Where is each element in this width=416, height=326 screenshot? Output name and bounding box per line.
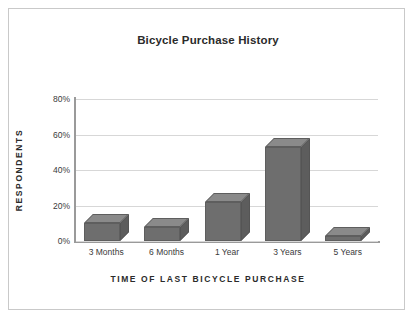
x-axis-title: TIME OF LAST BICYCLE PURCHASE	[0, 274, 416, 284]
bar-front-face	[325, 236, 361, 241]
bar	[144, 218, 189, 241]
bar-front-face	[144, 227, 180, 241]
bar	[84, 214, 129, 241]
y-axis-tick-label: 80%	[40, 94, 70, 104]
gridline	[76, 241, 378, 242]
chart-page: Bicycle Purchase History RESPONDENTS 0%2…	[0, 0, 416, 326]
gridline	[76, 99, 378, 100]
gridline	[76, 170, 378, 171]
y-axis-tick-label: 60%	[40, 130, 70, 140]
bar-front-face	[205, 202, 241, 241]
x-axis-tick-label: 5 Years	[318, 247, 378, 257]
bar-front-face	[84, 223, 120, 241]
x-axis-tick-labels: 3 Months6 Months1 Year3 Years5 Years	[76, 247, 378, 261]
plot-area	[76, 99, 378, 241]
x-axis-tick-label: 3 Years	[257, 247, 317, 257]
y-axis-tick-label: 40%	[40, 165, 70, 175]
bar	[205, 193, 250, 241]
bar	[325, 227, 370, 241]
bar-front-face	[265, 147, 301, 241]
gridline	[76, 135, 378, 136]
x-axis-tick-label: 3 Months	[76, 247, 136, 257]
x-axis-tick-label: 1 Year	[197, 247, 257, 257]
y-axis-tick-label: 0%	[40, 236, 70, 246]
bar	[265, 138, 310, 241]
y-axis-title: RESPONDENTS	[14, 100, 28, 240]
y-axis-tick-label: 20%	[40, 201, 70, 211]
x-axis-tick-label: 6 Months	[136, 247, 196, 257]
bar-side-face	[301, 138, 310, 241]
